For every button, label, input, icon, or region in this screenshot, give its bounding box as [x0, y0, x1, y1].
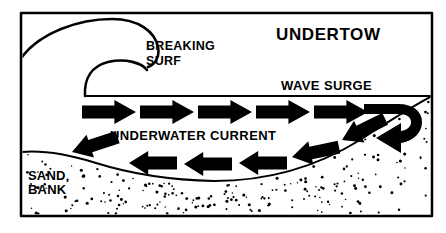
sand-dot	[192, 199, 194, 201]
sand-dot	[336, 185, 338, 187]
sand-dot	[424, 167, 427, 170]
sand-dot	[334, 190, 336, 192]
sand-dot	[116, 208, 118, 210]
sand-dot	[201, 204, 204, 207]
sand-dot	[164, 206, 166, 208]
surge-arrow-3	[198, 100, 252, 124]
sand-dot	[120, 198, 123, 201]
sand-dot	[235, 185, 237, 187]
sand-dot	[368, 191, 371, 194]
sand-dot	[71, 165, 72, 166]
sand-dot	[398, 209, 400, 211]
sand-dot	[66, 178, 68, 180]
sand-dot	[80, 169, 83, 172]
sand-dot	[364, 185, 367, 188]
sand-dot	[100, 200, 102, 202]
sand-dot	[117, 195, 120, 198]
sand-bank-label-line1: SAND	[28, 168, 66, 183]
sand-dot	[291, 199, 293, 201]
sand-dot	[425, 195, 427, 197]
sand-dot	[118, 189, 120, 191]
sand-dot	[177, 207, 180, 210]
breaking-wave	[22, 19, 158, 96]
sand-dot	[160, 185, 163, 188]
wave-surge-label: WAVE SURGE	[281, 78, 372, 93]
sand-dot	[103, 192, 105, 194]
sand-dot	[303, 198, 305, 200]
sand-dot	[116, 173, 119, 176]
sand-dot	[107, 212, 109, 214]
sand-dot	[400, 183, 403, 186]
sand-dot	[364, 139, 366, 141]
sand-dot	[341, 206, 343, 208]
sand-dot	[192, 202, 194, 204]
sand-dot	[304, 188, 307, 191]
sand-dot	[248, 203, 251, 206]
sand-dot	[226, 184, 229, 187]
sand-dot	[104, 201, 106, 203]
sand-dot	[213, 203, 216, 206]
sand-dot	[376, 158, 379, 161]
sand-dot	[168, 194, 170, 196]
sand-dot	[404, 180, 406, 182]
sand-dot	[284, 189, 287, 192]
diagram-canvas: UNDERTOW BREAKING SURF WAVE SURGE UNDERW…	[0, 0, 446, 233]
sand-dot	[98, 175, 101, 178]
sand-dot	[276, 177, 279, 180]
sand-dot	[272, 189, 274, 191]
sand-dot	[156, 204, 158, 206]
sand-dot	[146, 185, 148, 187]
sand-dot	[390, 191, 393, 194]
sand-dot	[224, 193, 226, 195]
sand-bank-label-line2: BANK	[28, 182, 67, 197]
sand-dot	[346, 165, 348, 167]
sand-dot	[197, 205, 199, 207]
sand-dot	[349, 212, 352, 215]
wave-inner-curl	[85, 61, 147, 96]
sand-dot	[90, 198, 93, 201]
sand-dot	[344, 181, 346, 183]
undertow-arrow-4	[239, 151, 287, 175]
sand-dot	[225, 200, 228, 203]
sand-dot	[83, 187, 85, 189]
sand-dot	[128, 187, 130, 189]
sand-dot	[360, 211, 362, 213]
sand-dot	[242, 193, 245, 196]
sand-dot	[284, 184, 286, 186]
sand-dot	[312, 165, 315, 168]
underwater-current-label: UNDERWATER CURRENT	[110, 128, 276, 143]
sand-dot	[110, 181, 112, 183]
sand-dot	[397, 176, 399, 178]
breaking-surf-label-line1: BREAKING	[146, 39, 215, 53]
sand-dot	[232, 192, 234, 194]
sand-dot	[362, 179, 364, 181]
sand-dot	[132, 178, 134, 180]
sand-dot	[358, 177, 360, 179]
sand-dot	[227, 197, 229, 199]
sand-dot	[230, 198, 233, 201]
sand-dot	[118, 204, 121, 207]
sand-dot	[425, 128, 427, 130]
sand-dot	[308, 195, 310, 197]
undertow-arrow-3	[184, 152, 232, 176]
sand-dot	[275, 189, 277, 191]
sand-dot	[263, 197, 265, 199]
sand-dot	[320, 186, 322, 188]
sand-dot	[171, 185, 173, 187]
sand-dot	[249, 209, 251, 211]
sand-dot	[343, 168, 346, 171]
sand-dot	[373, 134, 376, 137]
sand-dot	[235, 199, 238, 202]
sand-dot	[142, 206, 144, 208]
wave-surge-arrows	[82, 100, 368, 124]
sand-dot	[181, 192, 184, 195]
sand-dot	[185, 209, 188, 212]
sand-dot	[427, 112, 429, 114]
sand-dot	[122, 179, 125, 182]
sand-dot	[152, 183, 154, 185]
sand-dot	[424, 111, 427, 114]
sand-dot	[27, 154, 29, 156]
sand-dot	[345, 199, 347, 201]
sand-dot	[155, 190, 158, 193]
sand-dot	[225, 208, 227, 210]
